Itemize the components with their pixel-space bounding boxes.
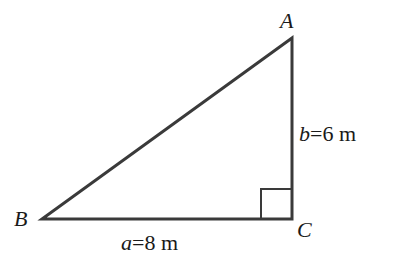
right-angle-marker [261,189,292,219]
right-triangle-diagram: A B C b=6 m a=8 m [0,0,394,259]
side-label-a: a=8 m [121,232,178,254]
vertex-label-a: A [280,10,293,32]
side-a-variable: a [121,230,132,255]
vertex-label-c: C [297,219,312,241]
side-a-value: =8 m [132,230,178,255]
side-b-variable: b [299,121,310,146]
side-label-b: b=6 m [299,123,356,145]
triangle-abc [42,38,292,219]
side-b-value: =6 m [310,121,356,146]
vertex-label-b: B [14,208,27,230]
